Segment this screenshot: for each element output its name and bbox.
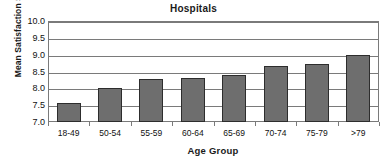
x-tick-mark	[255, 122, 256, 126]
bar-slot	[305, 21, 329, 122]
bar	[181, 78, 205, 122]
x-tick-mark	[379, 122, 380, 126]
x-tick-label: 65-69	[223, 128, 245, 138]
x-tick-label: 18-49	[58, 128, 80, 138]
bar	[98, 88, 122, 122]
y-tick-label: 8.0	[1, 83, 45, 93]
y-tick-label: 7.0	[1, 117, 45, 127]
y-tick-label: 9.0	[1, 50, 45, 60]
x-tick-label: 50-54	[99, 128, 121, 138]
bar-slot	[139, 21, 163, 122]
y-tick-label: 10.0	[1, 16, 45, 26]
bar-slot	[57, 21, 81, 122]
x-tick-mark	[48, 122, 49, 126]
x-axis-title: Age Group	[48, 145, 378, 156]
x-tick-label: 70-74	[265, 128, 287, 138]
bar-slot	[222, 21, 246, 122]
bar-slot	[98, 21, 122, 122]
chart-title: Hospitals	[0, 3, 387, 14]
bar	[305, 64, 329, 122]
x-tick-label: 55-59	[141, 128, 163, 138]
x-tick-mark	[131, 122, 132, 126]
x-tick-label: 75-79	[306, 128, 328, 138]
y-tick-label: 9.5	[1, 33, 45, 43]
x-tick-label: 60-64	[182, 128, 204, 138]
bar-chart: Hospitals Mean Satisfaction Score 10.09.…	[0, 0, 387, 165]
bar	[264, 66, 288, 122]
bar-slot	[264, 21, 288, 122]
x-axis-tick-labels: 18-4950-5455-5960-6465-6970-7475-79>79	[48, 122, 379, 144]
bar-slot	[181, 21, 205, 122]
bar	[222, 75, 246, 122]
y-tick-label: 7.5	[1, 100, 45, 110]
x-tick-label: >79	[351, 128, 365, 138]
x-tick-mark	[172, 122, 173, 126]
bar-series	[48, 21, 379, 122]
bar	[139, 79, 163, 122]
y-axis-tick-labels: 10.09.59.08.58.07.57.0	[0, 21, 45, 122]
bar	[346, 55, 370, 122]
x-tick-mark	[338, 122, 339, 126]
y-tick-label: 8.5	[1, 67, 45, 77]
x-tick-mark	[89, 122, 90, 126]
x-tick-mark	[214, 122, 215, 126]
x-tick-mark	[296, 122, 297, 126]
bar	[57, 103, 81, 122]
bar-slot	[346, 21, 370, 122]
